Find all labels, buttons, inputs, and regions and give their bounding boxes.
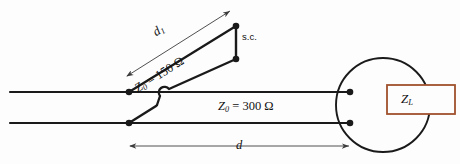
transmission-line-diagram: d1 s.c. Z0 = 150 Ω Z0 = 300 Ω d ZL [0,0,460,164]
diagram-canvas [0,0,460,164]
terminal-dot-top [347,89,354,96]
line-length-label: d [236,139,242,152]
junction-dot-bottom [126,120,133,127]
stub-conductor-lower-a [129,105,157,123]
short-circuit-label: s.c. [242,32,257,42]
stub-end-dot-top [233,23,240,30]
load-box [387,85,455,114]
junction-dot-top [126,89,133,96]
stub-end-dot-bottom [233,56,240,63]
terminal-dot-bottom [347,120,354,127]
load-impedance-label: ZL [401,92,413,106]
line-impedance-label: Z0 = 300 Ω [218,100,274,114]
